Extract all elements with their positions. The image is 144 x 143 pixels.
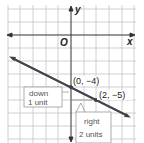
grid (8, 5, 136, 143)
coordinate-graph: y x O (0, −4) (2, −5) down 1 unit right … (0, 0, 144, 143)
point-label-2-neg5: (2, −5) (99, 90, 125, 100)
right-callout: right 2 units (76, 103, 111, 143)
graph-svg: y x O (0, −4) (2, −5) down 1 unit right … (0, 0, 144, 143)
down-callout: down 1 unit (24, 87, 69, 107)
right-callout-line2: 2 units (79, 130, 103, 139)
x-axis-label: x (126, 36, 133, 47)
origin-label: O (60, 37, 68, 48)
right-callout-line1: right (84, 117, 100, 126)
y-axis-label: y (74, 4, 81, 15)
down-callout-line1: down (29, 89, 48, 98)
point-label-0-neg4: (0, −4) (73, 76, 99, 86)
down-callout-line2: 1 unit (28, 98, 48, 107)
